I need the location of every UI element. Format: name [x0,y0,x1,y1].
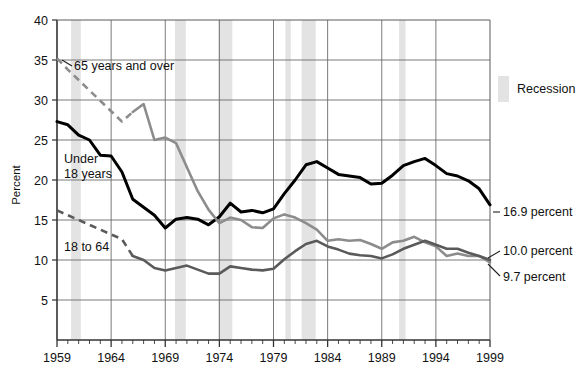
end-label-under-18: 16.9 percent [503,205,573,219]
end-label-65-and-over: 9.7 percent [503,270,566,284]
x-tick-label: 1989 [368,351,396,365]
y-tick-label: 20 [34,174,48,188]
x-tick-label: 1974 [205,351,233,365]
leader-line-65-and-over [62,60,72,66]
x-tick-label: 1984 [314,351,342,365]
x-tick-label: 1969 [151,351,179,365]
annotation-under-18-line2: 18 years [64,167,112,181]
legend-swatch-recession [498,76,509,102]
annotation-18-to-64: 18 to 64 [64,240,109,254]
x-tick-label: 1999 [476,351,504,365]
y-tick-label: 25 [34,134,48,148]
legend-label-recession: Recession [517,82,575,96]
x-tick-label: 1979 [260,351,288,365]
end-label-18-to-64: 10.0 percent [503,244,573,258]
y-axis-title: Percent [10,164,22,204]
annotation-65-years-and-over: 65 years and over [74,59,174,73]
y-tick-label: 5 [41,294,48,308]
x-tick-label: 1959 [43,351,71,365]
chart-canvas: 510152025303540 195919641969197419791984… [0,0,579,379]
y-tick-label: 35 [34,54,48,68]
x-tick-label: 1964 [97,351,125,365]
y-tick-label: 15 [34,214,48,228]
y-tick-label: 30 [34,94,48,108]
x-axis-tick-labels: 195919641969197419791984198919941999 [43,351,504,365]
x-tick-label: 1994 [422,351,450,365]
poverty-rate-line-chart: 510152025303540 195919641969197419791984… [0,0,579,379]
y-tick-label: 10 [34,254,48,268]
annotation-under-18-line1: Under [64,152,98,166]
y-axis-tick-labels: 510152025303540 [34,14,48,308]
y-tick-label: 40 [34,14,48,28]
